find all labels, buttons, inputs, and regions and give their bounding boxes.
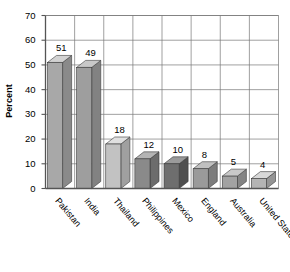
bar <box>77 60 101 188</box>
y-axis-tick-label: 60 <box>18 34 36 45</box>
bar-value-label: 8 <box>202 149 207 160</box>
bar <box>251 172 275 189</box>
y-axis-tick-label: 0 <box>18 183 36 194</box>
y-axis-tick-label: 50 <box>18 59 36 70</box>
bar <box>106 137 130 188</box>
bar-value-label: 10 <box>173 144 184 155</box>
bar-value-label: 51 <box>56 42 67 53</box>
chart-canvas <box>0 0 290 272</box>
bar <box>164 157 188 189</box>
bar-value-label: 49 <box>85 47 96 58</box>
bar-value-label: 18 <box>114 124 125 135</box>
y-axis-title: Percent <box>4 78 14 124</box>
bar <box>222 169 246 188</box>
y-axis-tick-label: 40 <box>18 84 36 95</box>
bar-series <box>48 55 276 188</box>
bar <box>135 152 159 189</box>
y-axis-tick-label: 30 <box>18 108 36 119</box>
bar-value-label: 5 <box>231 156 236 167</box>
bar-chart: Percent 010203040506070 5149181210854 Pa… <box>0 0 290 272</box>
y-axis-tick-label: 10 <box>18 158 36 169</box>
y-axis-tick-label: 20 <box>18 133 36 144</box>
bar <box>193 162 217 189</box>
bar-value-label: 12 <box>143 139 154 150</box>
bar <box>48 55 72 188</box>
y-axis-tick-label: 70 <box>18 10 36 21</box>
bar-value-label: 4 <box>260 159 265 170</box>
